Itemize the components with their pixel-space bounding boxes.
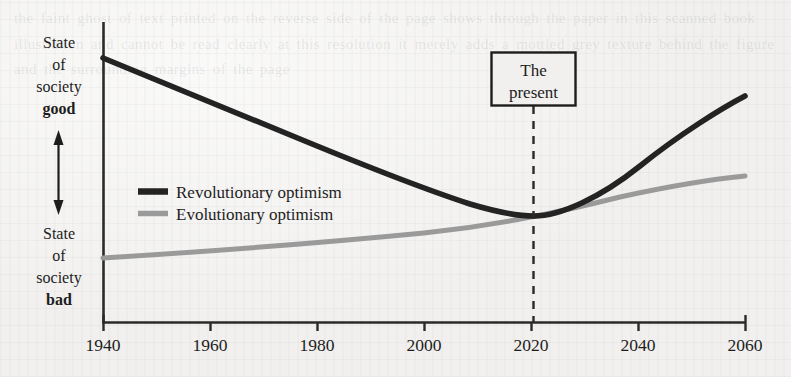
y-label-good-line2: of [52, 56, 66, 73]
x-tick-label-1960: 1960 [193, 335, 228, 355]
x-tick-label-2000: 2000 [407, 335, 442, 355]
present-annotation-box: The present [492, 53, 576, 106]
x-tick-label-2060: 2060 [728, 335, 763, 355]
y-axis-label-bad: State of society bad [36, 225, 81, 308]
chart-axes [102, 22, 746, 331]
y-axis-label-good: State of society good [36, 34, 81, 118]
y-label-good-line1: State [43, 34, 75, 51]
y-label-bad-line4: bad [46, 291, 72, 308]
y-label-bad-line1: State [43, 225, 75, 242]
y-label-bad-line3: society [36, 269, 81, 287]
x-tick-labels: 1940 1960 1980 2000 2020 2040 2060 [86, 335, 763, 355]
x-tick-label-2040: 2040 [621, 335, 656, 355]
y-label-bad-line2: of [52, 247, 66, 264]
x-tick-label-2020: 2020 [514, 335, 549, 355]
line-chart: 1940 1960 1980 2000 2020 2040 2060 State… [0, 0, 791, 377]
legend-label-revolutionary-optimism: Revolutionary optimism [176, 183, 342, 202]
y-direction-double-arrow-icon [54, 130, 64, 215]
x-tick-label-1980: 1980 [300, 335, 335, 355]
chart-legend: Revolutionary optimism Evolutionary opti… [138, 183, 342, 224]
present-box-line1: The [520, 61, 546, 80]
legend-label-evolutionary-optimism: Evolutionary optimism [176, 205, 333, 224]
present-box-line2: present [509, 83, 558, 102]
x-tick-label-1940: 1940 [86, 335, 121, 355]
y-label-good-line3: society [36, 78, 81, 96]
y-label-good-line4: good [43, 100, 76, 118]
scanned-page: the faint ghost of text printed on the r… [0, 0, 791, 377]
